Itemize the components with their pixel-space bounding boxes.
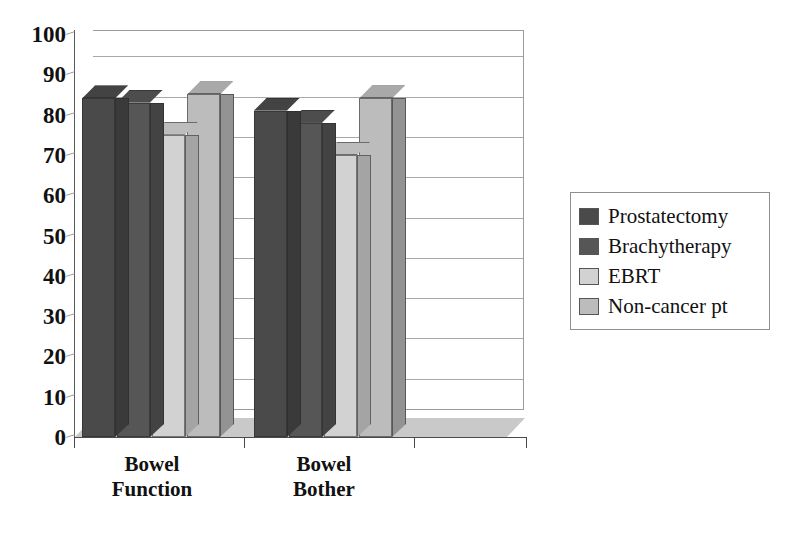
y-axis-tick-label: 20 [20, 345, 66, 368]
legend-swatch [579, 298, 599, 315]
bar [254, 111, 287, 437]
bar-side-face [287, 111, 301, 437]
x-axis-tick-mark [74, 437, 75, 448]
y-axis-tick-label: 70 [20, 143, 66, 166]
legend-swatch [579, 208, 599, 225]
legend-item: Prostatectomy [579, 201, 762, 231]
legend-label: EBRT [608, 266, 660, 287]
y-axis-tick-label: 100 [20, 23, 66, 46]
bar [82, 98, 115, 437]
y-axis: 1009080706050403020100 [14, 0, 66, 537]
bar-side-face [357, 155, 371, 437]
x-axis-tick-mark [244, 437, 245, 448]
legend-swatch [579, 238, 599, 255]
bar-side-face [185, 135, 199, 437]
plot-area [74, 30, 534, 442]
x-axis-tick-mark [526, 437, 527, 448]
legend-item: EBRT [579, 261, 762, 291]
y-axis-tick-label: 80 [20, 103, 66, 126]
y-axis-tick-label: 90 [20, 63, 66, 86]
y-axis-tick-label: 0 [20, 426, 66, 449]
legend-label: Brachytherapy [608, 236, 732, 257]
y-axis-tick-label: 30 [20, 305, 66, 328]
bar-front-face [254, 111, 287, 437]
y-axis-tick-label: 10 [20, 385, 66, 408]
gridline [93, 56, 523, 57]
legend-label: Prostatectomy [608, 206, 728, 227]
bar-side-face [115, 98, 129, 437]
legend-swatch [579, 268, 599, 285]
y-axis-tick-label: 50 [20, 224, 66, 247]
legend-item: Brachytherapy [579, 231, 762, 261]
x-axis-line [74, 437, 526, 438]
y-axis-tick-label: 40 [20, 264, 66, 287]
y-axis-tick-label: 60 [20, 184, 66, 207]
bar-side-face [392, 98, 406, 437]
chart-root: 1009080706050403020100 Bowel FunctionBow… [0, 0, 805, 537]
bar-front-face [82, 98, 115, 437]
bar-side-face [150, 103, 164, 437]
x-axis-tick-mark [414, 437, 415, 448]
gridline [93, 97, 523, 98]
x-axis-category-label: Bowel Bother [244, 452, 404, 502]
bar-side-face [220, 94, 234, 437]
legend-item: Non-cancer pt [579, 291, 762, 321]
bar-side-face [322, 123, 336, 437]
chart-legend: ProstatectomyBrachytherapyEBRTNon-cancer… [570, 192, 770, 330]
legend-label: Non-cancer pt [608, 296, 728, 317]
x-axis-category-label: Bowel Function [72, 452, 232, 502]
